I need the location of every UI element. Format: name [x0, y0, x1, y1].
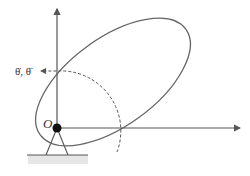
rigid-body-ellipse	[14, 0, 211, 170]
ground-hatch	[28, 155, 88, 164]
origin-label: O	[43, 116, 53, 131]
angular-velocity-acceleration-label: θ̇, θ̈	[15, 65, 33, 77]
rotation-arc	[41, 71, 121, 152]
diagram-canvas: O θ̇, θ̈	[0, 0, 250, 176]
pivot-point	[53, 124, 62, 133]
